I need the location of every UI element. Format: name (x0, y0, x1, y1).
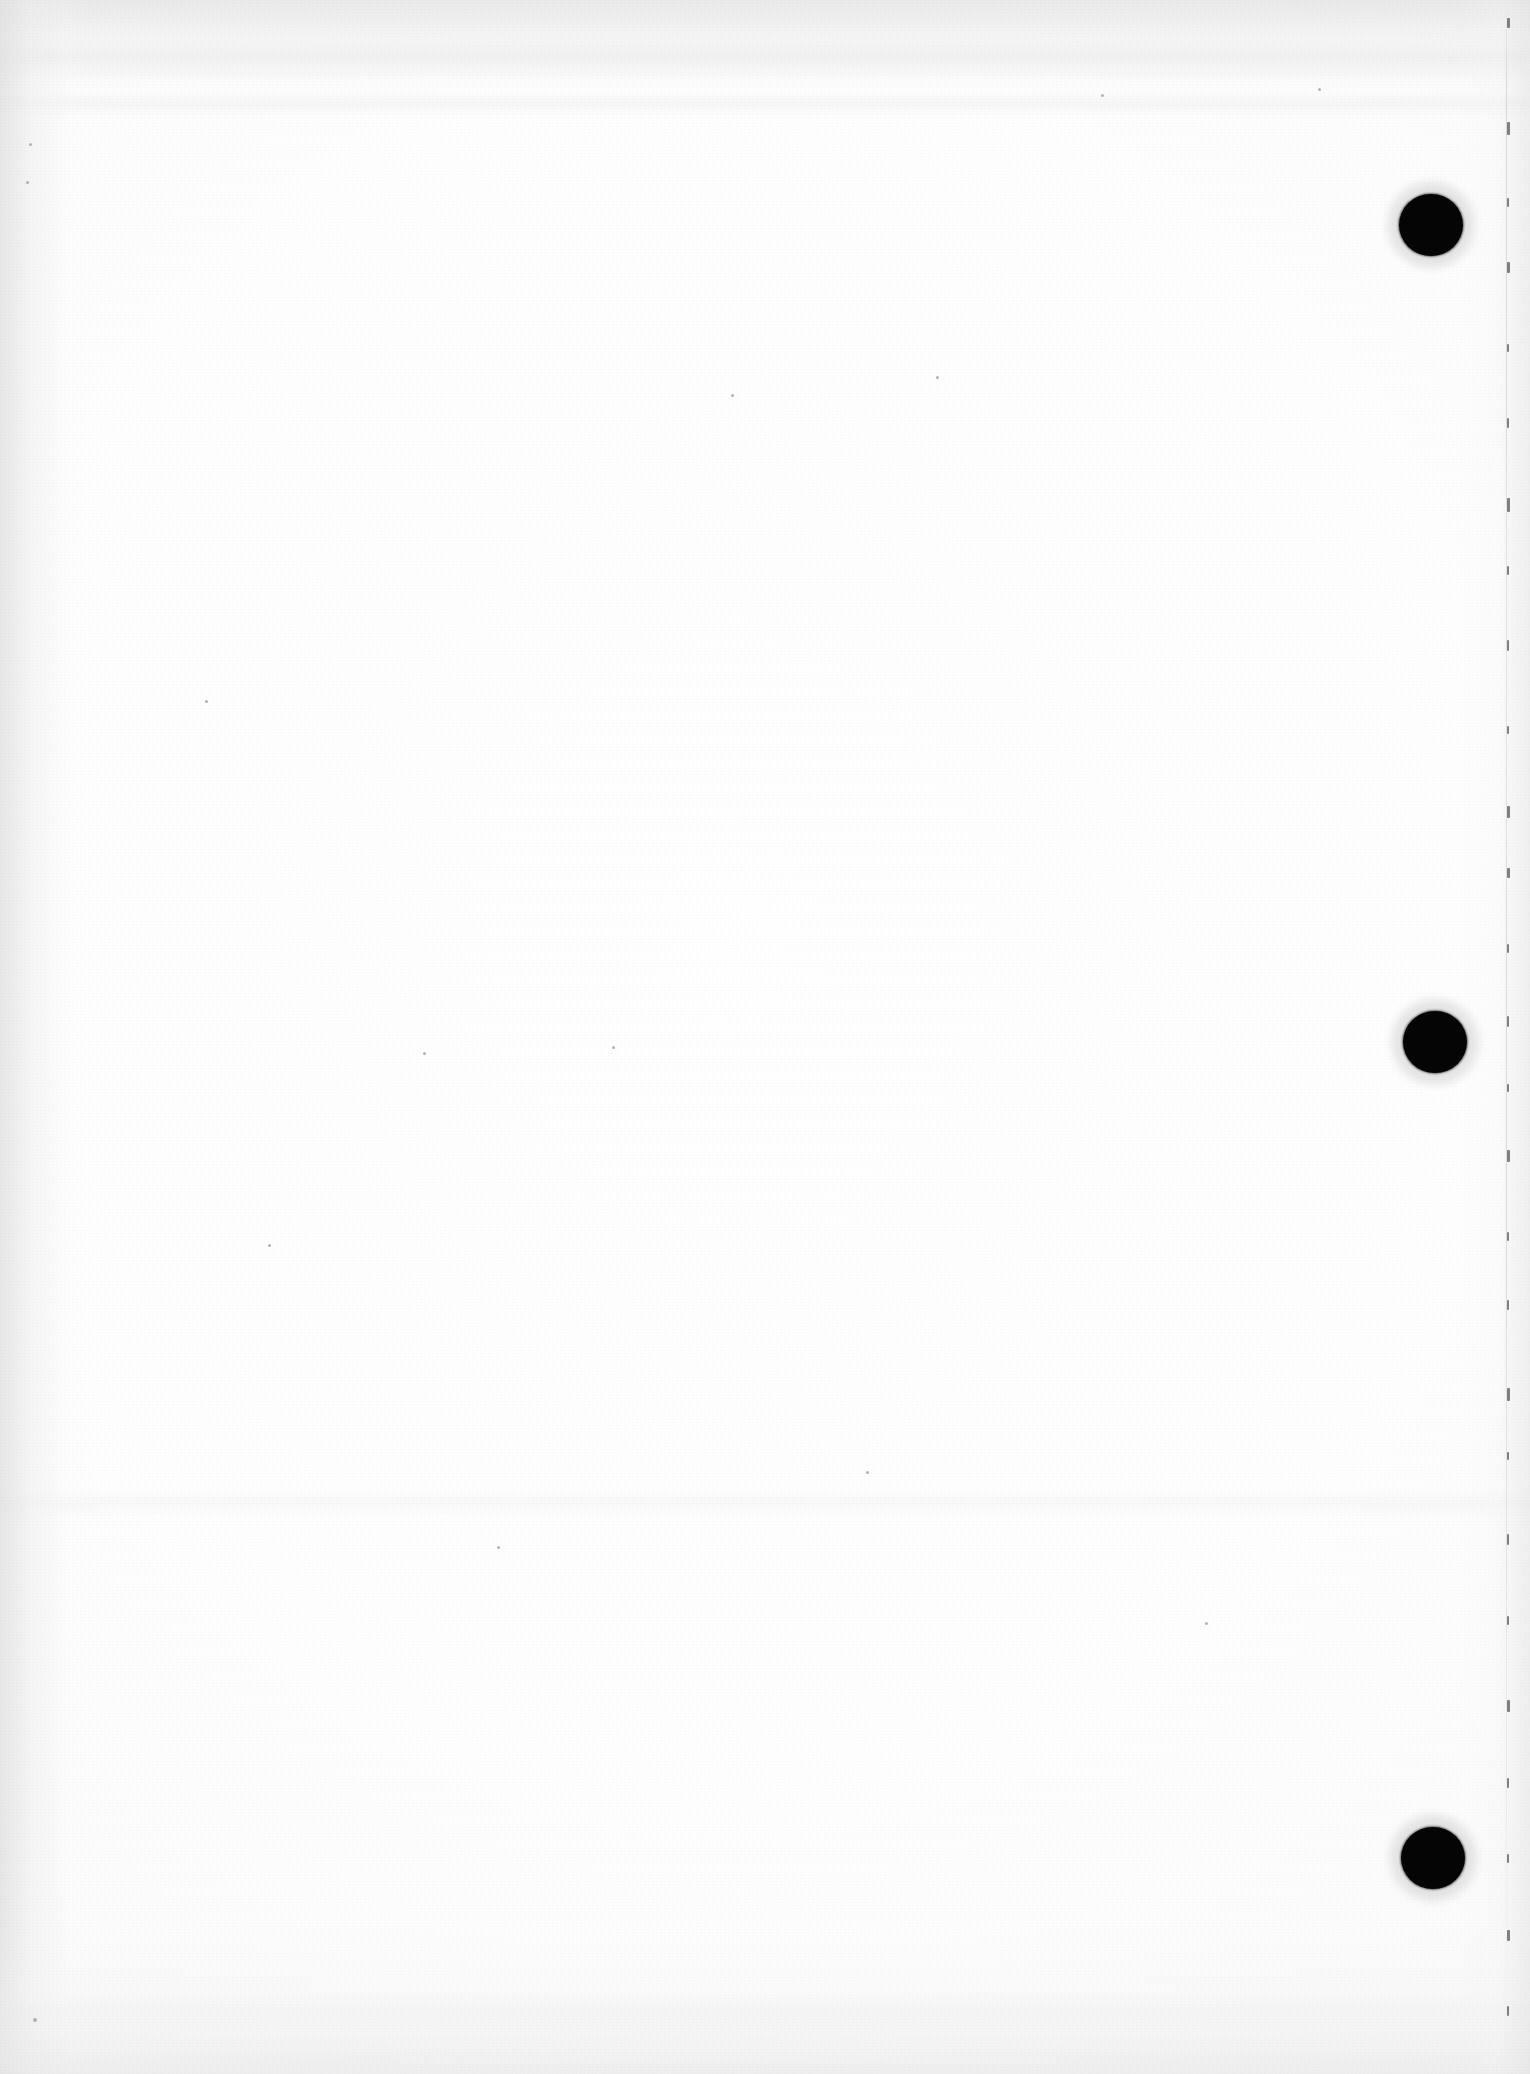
paper-edge-shadow-right (1460, 0, 1530, 2074)
sheet-edge-tick-25 (1507, 1930, 1510, 1941)
scan-speck-1 (29, 143, 32, 146)
sheet-edge-tick-2 (1507, 198, 1509, 207)
scan-speck-13 (1205, 1622, 1208, 1625)
scan-speck-0 (33, 2018, 37, 2022)
sheet-edge-tick-20 (1507, 1534, 1509, 1545)
sheet-edge-tick-8 (1507, 640, 1509, 651)
sheet-edge-tick-13 (1507, 1016, 1509, 1027)
scan-speck-6 (1318, 88, 1321, 91)
sheet-edge-tick-24 (1507, 1854, 1509, 1863)
sheet-edge-tick-5 (1507, 418, 1509, 428)
sheet-edge-tick-9 (1507, 726, 1509, 734)
paper-edge-shadow-bottom (0, 1924, 1530, 2074)
sheet-edge-tick-22 (1507, 1700, 1510, 1712)
sheet-edge-tick-6 (1507, 498, 1510, 512)
scan-speck-10 (497, 1546, 500, 1549)
scan-speck-2 (26, 181, 29, 184)
sheet-edge-tick-21 (1507, 1616, 1509, 1625)
sheet-edge-tick-7 (1507, 566, 1509, 575)
sheet-edge-tick-4 (1507, 344, 1509, 352)
paper-edge-shadow-top (0, 0, 1530, 120)
paper-edge-shadow-left (0, 0, 90, 2074)
paper-background (0, 0, 1530, 2074)
punch-hole-middle (1403, 1011, 1467, 1073)
scan-speck-12 (205, 700, 208, 703)
sheet-edge-tick-18 (1507, 1388, 1510, 1401)
sheet-edge-tick-23 (1507, 1778, 1509, 1788)
punch-hole-bottom (1401, 1827, 1465, 1889)
scan-speck-11 (866, 1471, 869, 1474)
sheet-edge-tick-17 (1507, 1300, 1509, 1310)
scan-speck-4 (423, 1052, 426, 1055)
sheet-edge-tick-11 (1507, 868, 1510, 878)
sheet-edge-tick-12 (1507, 944, 1509, 953)
sheet-edge-tick-16 (1507, 1232, 1509, 1241)
sheet-edge-tick-19 (1507, 1452, 1509, 1460)
scan-speck-7 (1101, 94, 1104, 97)
scan-speck-9 (936, 376, 939, 379)
sheet-edge-tick-1 (1507, 122, 1510, 135)
sheet-edge-tick-26 (1507, 2006, 1509, 2016)
sheet-edge-tick-15 (1507, 1150, 1510, 1162)
sheet-edge-line (1506, 0, 1507, 2074)
sheet-edge-tick-10 (1507, 806, 1510, 818)
scan-speck-3 (268, 1244, 271, 1247)
sheet-edge-tick-3 (1507, 262, 1510, 273)
sheet-edge-tick-0 (1507, 18, 1510, 28)
punch-hole-top (1399, 194, 1463, 256)
sheet-edge-tick-14 (1507, 1084, 1509, 1092)
scan-smudge-band-3 (0, 1490, 1530, 1520)
scanned-page (0, 0, 1530, 2074)
scan-speck-5 (612, 1046, 615, 1049)
scan-speck-8 (731, 394, 734, 397)
